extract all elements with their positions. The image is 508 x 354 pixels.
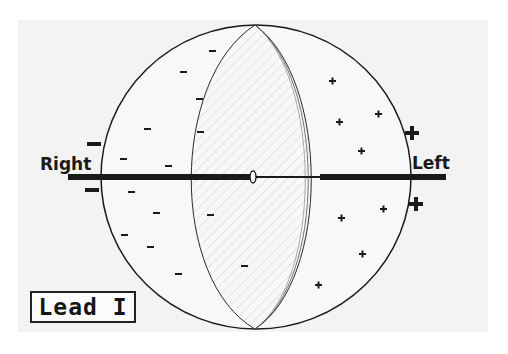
left-arm-label: Left xyxy=(412,153,450,173)
lead-axis-negative xyxy=(68,174,252,180)
lead-axis-positive xyxy=(320,174,446,180)
lead-title-box: Lead I xyxy=(30,291,136,323)
axis-center-marker xyxy=(250,171,256,183)
right-arm-label: Right xyxy=(40,154,91,174)
lead-i-diagram: Right Left Lead I xyxy=(0,0,508,354)
lead-title: Lead I xyxy=(38,294,127,320)
